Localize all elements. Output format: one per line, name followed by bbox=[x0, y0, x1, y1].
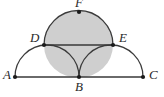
point-label-e: E bbox=[119, 31, 127, 44]
point-d-dot bbox=[42, 43, 46, 47]
shaded-semicircle-dfe bbox=[44, 11, 113, 46]
point-label-c: C bbox=[149, 68, 158, 81]
point-label-a: A bbox=[3, 68, 11, 81]
point-f-dot bbox=[77, 10, 81, 14]
point-c-dot bbox=[141, 75, 145, 79]
point-label-d: D bbox=[30, 31, 39, 44]
point-a-dot bbox=[13, 75, 17, 79]
point-label-f: F bbox=[75, 0, 83, 9]
point-label-b: B bbox=[75, 80, 83, 93]
point-e-dot bbox=[111, 43, 115, 47]
geometry-figure: A B C D E F bbox=[0, 0, 164, 97]
